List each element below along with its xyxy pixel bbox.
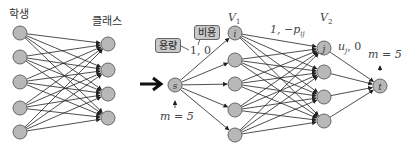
v1-node	[228, 53, 242, 67]
node-label: i	[234, 29, 237, 39]
bipartite-to-flow-diagram: sijt 학생 클래스 비용 용량 1, 0 V1 V2 1, −pij uj,…	[0, 0, 403, 152]
source-edge	[181, 88, 227, 107]
classes-title: 클래스	[92, 12, 122, 28]
edge-label-middle: 1, −pij	[270, 23, 305, 38]
student-node	[13, 26, 27, 40]
source-edge	[182, 84, 227, 85]
assignment-edge	[241, 100, 316, 132]
assignment-edge	[241, 77, 318, 131]
assignment-edge	[242, 122, 316, 134]
assignment-edge	[241, 37, 318, 92]
node-label: s	[173, 81, 178, 91]
v1-node	[228, 128, 242, 142]
v1-node	[228, 77, 242, 91]
sink-edge	[331, 74, 372, 84]
transform-arrow-icon	[140, 78, 161, 90]
v2-node	[317, 114, 331, 128]
class-node	[101, 63, 115, 77]
student-class-edge	[26, 47, 100, 79]
student-node	[13, 75, 27, 89]
student-class-edge	[27, 34, 100, 43]
student-class-edge	[26, 60, 100, 91]
edge-label-sink: uj, 0	[338, 40, 361, 55]
sink-demand-label: m = 5	[368, 48, 402, 61]
assignment-edge	[242, 111, 316, 120]
assignment-edge	[242, 73, 316, 83]
v1-node	[228, 103, 242, 117]
source-edge	[181, 63, 227, 82]
node-label: t	[378, 82, 382, 92]
sink-edge	[330, 52, 374, 82]
student-class-edge	[26, 49, 102, 104]
v2-label: V2	[320, 11, 332, 26]
v2-node	[317, 90, 331, 104]
diagram-canvas: sijt	[0, 0, 403, 152]
student-node	[13, 101, 27, 115]
callout-pointer	[181, 46, 189, 50]
source-supply-label: m = 5	[160, 110, 194, 123]
cost-callout: 비용	[194, 25, 220, 40]
students-title: 학생	[9, 5, 29, 21]
capacity-callout: 용량	[155, 38, 181, 53]
student-node	[13, 50, 27, 64]
v1-label: V1	[228, 11, 240, 26]
v2-node	[317, 65, 331, 79]
assignment-edge	[242, 85, 316, 96]
student-node	[13, 125, 27, 139]
class-node	[101, 37, 115, 51]
student-class-edge	[26, 75, 102, 128]
student-class-edge	[26, 97, 100, 129]
student-class-edge	[27, 119, 100, 131]
class-node	[101, 111, 115, 125]
class-node	[101, 87, 115, 101]
edge-label-source: 1, 0	[190, 44, 211, 57]
